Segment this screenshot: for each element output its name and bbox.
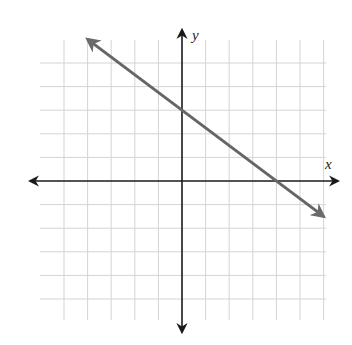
y-axis-label: y <box>190 27 199 43</box>
coordinate-plane: x y <box>0 0 352 345</box>
grid-lines <box>40 40 326 320</box>
x-axis-label: x <box>324 156 332 172</box>
axes: x y <box>30 27 338 332</box>
